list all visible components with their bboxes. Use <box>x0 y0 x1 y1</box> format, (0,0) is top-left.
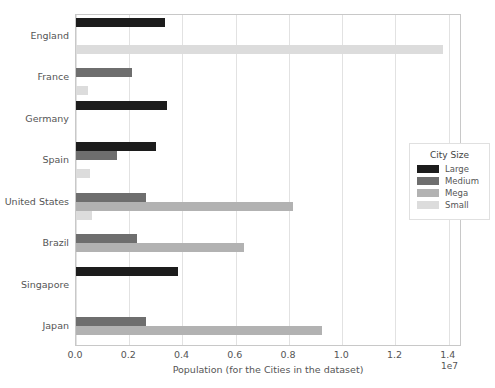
bar <box>76 45 443 54</box>
legend-swatch-medium <box>417 177 439 185</box>
gridline <box>76 15 77 345</box>
legend-entries: LargeMediumMegaSmall <box>417 164 482 210</box>
bar <box>76 317 146 326</box>
bar <box>76 101 167 110</box>
y-tick-label-singapore: Singapore <box>0 278 69 289</box>
bar <box>76 202 293 211</box>
legend: City Size LargeMediumMegaSmall <box>409 143 490 220</box>
x-tick-label: 0.8 <box>280 349 295 360</box>
plot-area <box>75 14 461 346</box>
gridline <box>289 15 290 345</box>
chart-figure: EnglandFranceGermanySpainUnited StatesBr… <box>0 0 495 388</box>
legend-swatch-mega <box>417 189 439 197</box>
bar <box>76 211 92 220</box>
legend-entry-small: Small <box>417 200 482 210</box>
y-tick-label-japan: Japan <box>0 320 69 331</box>
bar <box>76 267 178 276</box>
x-tick-label: 1.2 <box>387 349 402 360</box>
bar <box>76 234 137 243</box>
gridline <box>182 15 183 345</box>
bar <box>76 86 88 95</box>
bar <box>76 243 244 252</box>
x-tick-label: 1.0 <box>334 349 349 360</box>
bar <box>76 151 117 160</box>
legend-label: Large <box>445 164 469 174</box>
y-tick-label-brazil: Brazil <box>0 237 69 248</box>
legend-label: Medium <box>445 176 479 186</box>
bar <box>76 193 146 202</box>
y-tick-label-france: France <box>0 71 69 82</box>
x-tick-label: 0.0 <box>67 349 82 360</box>
legend-label: Mega <box>445 188 468 198</box>
bar <box>76 142 156 151</box>
y-tick-label-united-states: United States <box>0 195 69 206</box>
x-tick-label: 0.2 <box>121 349 136 360</box>
legend-swatch-small <box>417 201 439 209</box>
legend-swatch-large <box>417 165 439 173</box>
bar <box>76 326 322 335</box>
gridline <box>342 15 343 345</box>
y-tick-label-germany: Germany <box>0 112 69 123</box>
y-tick-label-england: England <box>0 29 69 40</box>
x-axis-exponent-label: 1e7 <box>441 361 458 371</box>
y-tick-label-spain: Spain <box>0 154 69 165</box>
x-tick-label: 0.4 <box>174 349 189 360</box>
legend-label: Small <box>445 200 469 210</box>
legend-entry-medium: Medium <box>417 176 482 186</box>
bar <box>76 169 90 178</box>
gridline <box>395 15 396 345</box>
legend-entry-mega: Mega <box>417 188 482 198</box>
x-axis-tick-labels: 0.00.20.40.60.81.01.21.4 <box>75 349 461 365</box>
y-axis-tick-labels: EnglandFranceGermanySpainUnited StatesBr… <box>0 14 69 346</box>
bar <box>76 68 132 77</box>
x-tick-label: 0.6 <box>227 349 242 360</box>
legend-entry-large: Large <box>417 164 482 174</box>
x-axis-label: Population (for the Cities in the datase… <box>75 364 461 375</box>
bar <box>76 18 165 27</box>
gridline <box>236 15 237 345</box>
x-tick-label: 1.4 <box>440 349 455 360</box>
gridline <box>129 15 130 345</box>
legend-title: City Size <box>417 150 482 160</box>
